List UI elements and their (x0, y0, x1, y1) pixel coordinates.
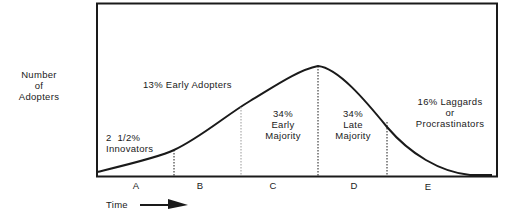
innovators-name: Innovators (106, 143, 153, 154)
segment-letter-d: D (349, 180, 359, 191)
y-axis-label-line: Adopters (14, 91, 64, 102)
segment-letter-e: E (423, 181, 433, 192)
segment-letter-a: A (131, 180, 141, 191)
x-axis-label: Time (106, 199, 128, 209)
late-majority-line-2: Majority (328, 130, 378, 141)
early-majority-line-1: Early (258, 119, 308, 130)
innovators-percent: 2 1/2% (106, 132, 153, 143)
arrow-right-icon (140, 199, 188, 209)
early-majority-percent: 34% (258, 108, 308, 119)
segment-letter-c: C (268, 180, 278, 191)
late-majority-percent: 34% (328, 108, 378, 119)
late-majority-label: 34% Late Majority (328, 108, 378, 141)
segment-letter-b: B (195, 180, 205, 191)
late-majority-line-1: Late (328, 119, 378, 130)
y-axis-label-line: Number (14, 69, 64, 80)
y-axis-label-line: of (14, 80, 64, 91)
y-axis-label: Number of Adopters (14, 69, 64, 102)
early-majority-line-2: Majority (258, 130, 308, 141)
early-majority-label: 34% Early Majority (258, 108, 308, 141)
laggards-alt: Procrastinators (412, 118, 488, 129)
laggards-name: 16% Laggards (412, 96, 488, 107)
chart-frame (97, 4, 497, 177)
innovators-label: 2 1/2% Innovators (106, 132, 153, 154)
early-adopters-label: 13% Early Adopters (143, 79, 232, 90)
laggards-label: 16% Laggards or Procrastinators (412, 96, 488, 129)
laggards-or: or (412, 107, 488, 118)
